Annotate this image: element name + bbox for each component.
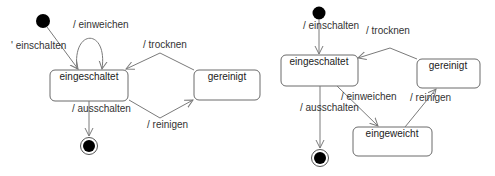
edge-trocknen xyxy=(358,48,417,59)
final-node xyxy=(81,138,98,155)
label-ausschalten: / ausschalten xyxy=(72,103,131,114)
state-gereinigt-label: gereinigt xyxy=(208,71,247,82)
label-reinigen: / reinigen xyxy=(410,92,451,103)
edge-reinigen xyxy=(129,100,193,118)
label-trocknen: / trocknen xyxy=(366,25,410,36)
label-trocknen: / trocknen xyxy=(143,39,187,50)
state-gereinigt-label: gereinigt xyxy=(429,60,468,71)
initial-node xyxy=(313,7,326,20)
final-node xyxy=(312,150,329,167)
state-eingeweicht-label: eingeweicht xyxy=(366,128,419,139)
label-einschalten: / einschalten xyxy=(303,20,359,31)
diagram-right: / einschalten eingeschaltet gereinigt ei… xyxy=(281,7,480,167)
label-einweichen: / einweichen xyxy=(73,19,129,30)
edge-trocknen xyxy=(126,53,194,70)
label-reinigen: / reinigen xyxy=(147,119,188,130)
state-eingeschaltet-label: eingeschaltet xyxy=(60,71,119,82)
initial-node xyxy=(36,14,50,28)
label-einschalten: ' einschalten xyxy=(11,40,66,51)
label-ausschalten: / ausschalten xyxy=(300,102,359,113)
label-einweichen: / einweichen xyxy=(341,91,397,102)
edge-einweichen-loop xyxy=(77,38,103,69)
state-eingeschaltet-label: eingeschaltet xyxy=(290,56,349,67)
diagram-left: ' einschalten / einweichen eingeschaltet… xyxy=(11,14,260,155)
state-diagrams: ' einschalten / einweichen eingeschaltet… xyxy=(0,0,495,176)
